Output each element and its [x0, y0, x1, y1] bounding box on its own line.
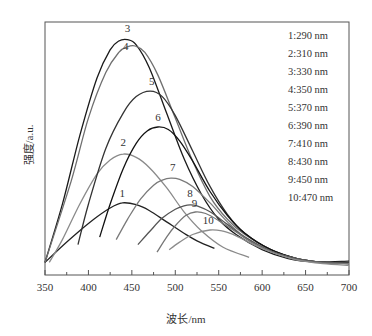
curve-number-label: 9: [192, 197, 198, 209]
x-tick-label: 350: [30, 281, 60, 293]
legend-item: 7:410 nm: [288, 135, 333, 153]
x-axis-ticks: [45, 270, 349, 275]
curve-number-label: 4: [123, 40, 129, 52]
curve-2: [49, 154, 249, 262]
legend-item: 2:310 nm: [288, 45, 333, 63]
x-tick-label: 450: [117, 281, 147, 293]
x-axis-label: 波长/nm: [0, 310, 372, 326]
legend-item: 6:390 nm: [288, 117, 333, 135]
curve-1: [45, 203, 214, 263]
curve-number-label: 2: [120, 136, 126, 148]
legend-item: 1:290 nm: [288, 27, 333, 45]
curve-number-label: 5: [149, 75, 155, 87]
legend-item: 10:470 nm: [288, 189, 333, 207]
x-tick-label: 700: [334, 281, 364, 293]
y-axis-label: 强度/a.u.: [20, 121, 36, 169]
legend-item: 5:370 nm: [288, 99, 333, 117]
x-tick-label: 650: [291, 281, 321, 293]
curve-labels: 12345678910: [120, 22, 215, 226]
curve-number-label: 6: [155, 111, 161, 123]
curve-10: [169, 230, 349, 266]
legend-item: 3:330 nm: [288, 63, 333, 81]
curve-number-label: 3: [125, 22, 131, 34]
x-tick-label: 600: [247, 281, 277, 293]
x-tick-label: 500: [160, 281, 190, 293]
legend-item: 8:430 nm: [288, 153, 333, 171]
curve-number-label: 7: [170, 161, 176, 173]
x-tick-label: 550: [204, 281, 234, 293]
x-tick-label: 400: [73, 281, 103, 293]
curve-number-label: 1: [120, 187, 126, 199]
curve-number-label: 10: [203, 214, 215, 226]
legend-item: 9:450 nm: [288, 171, 333, 189]
legend-item: 4:350 nm: [288, 81, 333, 99]
legend: 1:290 nm 2:310 nm 3:330 nm 4:350 nm 5:37…: [288, 27, 333, 207]
